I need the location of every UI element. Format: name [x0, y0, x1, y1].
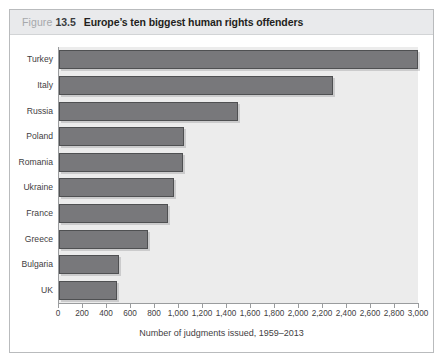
- x-axis-tick-label: 3,000: [408, 309, 429, 318]
- x-axis-tick-label: 1,000: [168, 309, 189, 318]
- y-axis-label-russia: Russia: [0, 102, 53, 121]
- x-axis-tick: [154, 304, 155, 308]
- x-axis-tick: [82, 304, 83, 308]
- x-axis-tick-label: 2,600: [360, 309, 381, 318]
- x-axis-tick-label: 2,400: [336, 309, 357, 318]
- figure-label-word: Figure: [22, 16, 52, 28]
- x-axis-tick: [250, 304, 251, 308]
- bar-row: [59, 204, 419, 223]
- x-axis-tick-label: 2,800: [384, 309, 405, 318]
- x-axis-tick: [202, 304, 203, 308]
- x-axis-tick: [418, 304, 419, 308]
- x-axis-line: [58, 303, 419, 304]
- figure-container: Figure 13.5 Europe’s ten biggest human r…: [9, 9, 434, 353]
- y-axis-label-bulgaria: Bulgaria: [0, 255, 53, 274]
- x-axis-tick-label: 1,200: [192, 309, 213, 318]
- y-axis-label-poland: Poland: [0, 127, 53, 146]
- y-axis-label-uk: UK: [0, 281, 53, 300]
- bar-romania: [59, 153, 183, 172]
- x-axis-title: Number of judgments issued, 1959–2013: [10, 328, 433, 338]
- x-axis-tick-label: 1,800: [264, 309, 285, 318]
- y-axis-label-turkey: Turkey: [0, 50, 53, 69]
- bar-italy: [59, 76, 333, 95]
- bar-row: [59, 178, 419, 197]
- bar-row: [59, 153, 419, 172]
- x-axis-tick: [226, 304, 227, 308]
- y-axis-label-ukraine: Ukraine: [0, 178, 53, 197]
- bar-row: [59, 230, 419, 249]
- bar-greece: [59, 230, 148, 249]
- bar-bulgaria: [59, 255, 119, 274]
- y-axis-label-romania: Romania: [0, 153, 53, 172]
- bar-uk: [59, 281, 117, 300]
- x-axis-tick: [274, 304, 275, 308]
- bar-poland: [59, 127, 184, 146]
- x-axis-tick-label: 1,600: [240, 309, 261, 318]
- x-axis-tick-label: 200: [75, 309, 89, 318]
- y-axis-label-france: France: [0, 204, 53, 223]
- x-axis-tick: [298, 304, 299, 308]
- x-axis-tick-label: 600: [123, 309, 137, 318]
- x-axis-tick: [322, 304, 323, 308]
- x-axis-tick: [370, 304, 371, 308]
- figure-title: Europe’s ten biggest human rights offend…: [84, 16, 303, 28]
- x-axis-tick: [58, 304, 59, 308]
- x-axis-tick: [178, 304, 179, 308]
- x-axis-tick: [106, 304, 107, 308]
- x-axis-tick-label: 400: [99, 309, 113, 318]
- x-axis-tick-label: 0: [56, 309, 61, 318]
- bar-france: [59, 204, 168, 223]
- figure-number: 13.5: [55, 16, 75, 28]
- bar-russia: [59, 102, 238, 121]
- figure-header: Figure 13.5 Europe’s ten biggest human r…: [10, 10, 433, 35]
- x-axis-tick-label: 2,000: [288, 309, 309, 318]
- bar-row: [59, 127, 419, 146]
- bar-row: [59, 281, 419, 300]
- x-axis-tick-label: 800: [147, 309, 161, 318]
- x-axis-tick: [346, 304, 347, 308]
- bar-row: [59, 102, 419, 121]
- x-axis-tick-label: 1,400: [216, 309, 237, 318]
- chart-plot-area: [58, 47, 418, 303]
- y-axis-label-greece: Greece: [0, 230, 53, 249]
- bar-turkey: [59, 50, 418, 69]
- bar-row: [59, 50, 419, 69]
- x-axis-tick-label: 2,200: [312, 309, 333, 318]
- x-axis-tick: [394, 304, 395, 308]
- bar-row: [59, 76, 419, 95]
- x-axis-tick: [130, 304, 131, 308]
- bar-row: [59, 255, 419, 274]
- bar-ukraine: [59, 178, 174, 197]
- y-axis-label-italy: Italy: [0, 76, 53, 95]
